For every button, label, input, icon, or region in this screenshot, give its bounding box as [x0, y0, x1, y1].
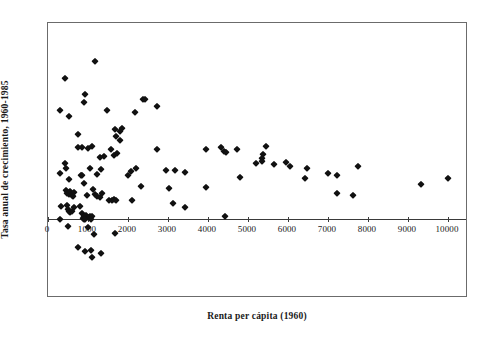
x-tick-mark [248, 217, 249, 222]
data-point [334, 172, 340, 178]
data-point [350, 192, 356, 198]
data-point [81, 98, 87, 104]
data-point [78, 144, 84, 150]
data-point [236, 174, 242, 180]
plot-frame [47, 22, 467, 297]
data-point [234, 145, 240, 151]
data-point [182, 203, 188, 209]
data-point [270, 161, 276, 167]
data-point [302, 175, 308, 181]
x-tick-mark [368, 217, 369, 222]
x-tick-mark [128, 217, 129, 222]
data-point [57, 216, 63, 222]
data-point [325, 170, 331, 176]
data-point [81, 180, 87, 186]
x-tick-label: 5000 [238, 224, 256, 234]
x-tick-label: 8000 [358, 224, 376, 234]
x-tick-label: 1000 [78, 224, 96, 234]
data-point [88, 247, 94, 253]
data-point [57, 170, 63, 176]
x-tick-label: 6000 [278, 224, 296, 234]
x-tick-mark [328, 217, 329, 222]
data-point [445, 175, 451, 181]
x-axis-line [48, 219, 466, 220]
data-point [98, 250, 104, 256]
data-point [202, 145, 208, 151]
data-point [65, 223, 71, 229]
plot-area [48, 23, 466, 296]
data-point [170, 199, 176, 205]
x-tick-mark [48, 217, 49, 222]
data-point [262, 143, 268, 149]
x-tick-mark [208, 217, 209, 222]
data-point [63, 165, 69, 171]
data-point [87, 165, 93, 171]
data-point [74, 244, 80, 250]
x-tick-mark [288, 217, 289, 222]
data-point [65, 176, 71, 182]
data-point [172, 167, 178, 173]
y-axis: -4-20246810 [0, 22, 47, 297]
data-point [84, 192, 90, 198]
data-point [113, 197, 119, 203]
data-point [74, 131, 80, 137]
x-tick-mark [408, 217, 409, 222]
data-point [418, 181, 424, 187]
data-point [104, 107, 110, 113]
data-point [286, 163, 292, 169]
data-point [132, 109, 138, 115]
data-point [128, 197, 134, 203]
data-point [304, 165, 310, 171]
data-point [94, 171, 100, 177]
x-tick-label: 9000 [398, 224, 416, 234]
data-point [182, 169, 188, 175]
x-tick-mark [448, 217, 449, 222]
data-point [355, 163, 361, 169]
x-tick-label: 3000 [158, 224, 176, 234]
data-point [66, 113, 72, 119]
data-point [259, 158, 265, 164]
data-point [203, 184, 209, 190]
data-point [138, 183, 144, 189]
data-point [89, 254, 95, 260]
x-tick-label: 2000 [118, 224, 136, 234]
data-point [223, 148, 229, 154]
data-point [334, 190, 340, 196]
data-point [82, 90, 88, 96]
data-point [76, 202, 82, 208]
x-tick-label: 0 [45, 224, 50, 234]
data-point [154, 145, 160, 151]
x-tick-label: 7000 [318, 224, 336, 234]
data-point [57, 107, 63, 113]
data-point [154, 102, 160, 108]
x-axis-title: Renta per cápita (1960) [47, 311, 467, 321]
x-tick-label: 4000 [198, 224, 216, 234]
data-point [62, 75, 68, 81]
data-point [166, 185, 172, 191]
x-tick-label: 10000 [436, 224, 459, 234]
x-tick-mark [168, 217, 169, 222]
data-point [116, 137, 122, 143]
data-point [163, 167, 169, 173]
data-point [92, 58, 98, 64]
scatter-plot-figure: Tasa anual de crecimiento, 1960-1985 -4-… [0, 0, 490, 341]
